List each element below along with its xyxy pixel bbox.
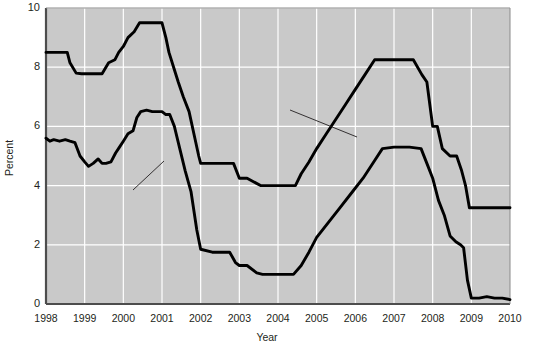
interest-rate-chart: Percent Year 0246810 1998199920002001200…	[0, 0, 534, 347]
plot-canvas	[0, 0, 534, 347]
